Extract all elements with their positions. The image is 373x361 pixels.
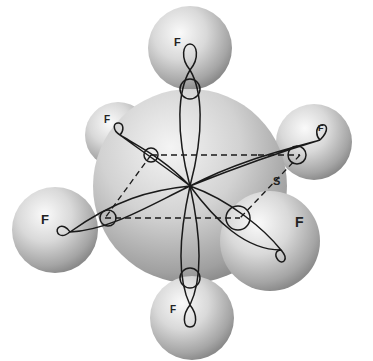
atom-label-back-right: F (318, 123, 324, 133)
atom-label-left: F (41, 212, 49, 227)
atom-label-back-left: F (104, 114, 110, 125)
fluorine-atom-bottom (150, 276, 234, 360)
sf6-molecule-diagram: F F F F F F S (0, 0, 373, 361)
sulfur-label: S (273, 175, 280, 187)
fluorine-atom-top (148, 6, 232, 90)
atom-label-bottom: F (170, 304, 176, 315)
atom-label-top: F (174, 36, 181, 48)
atom-label-front-right: F (295, 214, 304, 230)
